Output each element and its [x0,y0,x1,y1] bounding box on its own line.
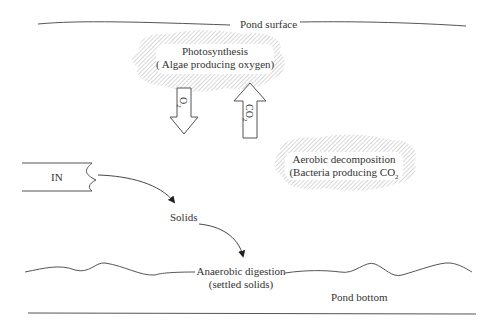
pond-bottom-label: Pond bottom [331,291,388,304]
photosynthesis-label: Photosynthesis ( Algae producing oxygen) [156,45,274,71]
aerobic-title: Aerobic decomposition [285,153,403,166]
solids-label: Solids [170,211,198,224]
flow-arrow-solids-to-bottom [199,224,243,256]
aerobic-label: Aerobic decomposition (Bacteria producin… [285,153,403,184]
aerobic-subtitle: (Bacteria producing CO2 [285,166,403,184]
co2-arrow-label: CO2 [238,104,256,121]
anaerobic-subtitle: (settled solids) [195,278,287,291]
o2-arrow-label: O2 [172,97,190,108]
o2-down-arrow [170,88,198,134]
pond-surface-label: Pond surface [237,18,300,31]
pond-bottom-line [28,313,476,314]
inlet-label: IN [51,171,63,184]
anaerobic-label: Anaerobic digestion (settled solids) [195,265,287,291]
photosynthesis-title: Photosynthesis [156,45,274,58]
photosynthesis-subtitle: ( Algae producing oxygen) [156,58,274,71]
anaerobic-title: Anaerobic digestion [195,265,287,278]
flow-arrow-in-to-solids [98,175,174,202]
